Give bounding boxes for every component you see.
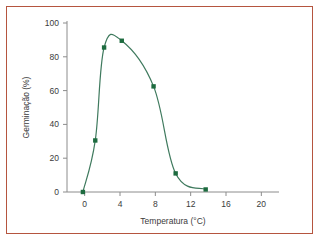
x-axis-title: Temperatura (°C) bbox=[140, 216, 205, 226]
chart-card: 048121620020406080100Temperatura (°C)Ger… bbox=[7, 7, 312, 233]
data-point-marker bbox=[203, 187, 207, 191]
y-tick-label: 60 bbox=[50, 86, 60, 96]
y-tick-label: 100 bbox=[45, 18, 59, 28]
data-point-marker bbox=[120, 39, 124, 43]
x-tick-label: 12 bbox=[186, 199, 196, 209]
data-point-marker bbox=[93, 138, 97, 142]
y-tick-label: 40 bbox=[50, 119, 60, 129]
data-point-marker bbox=[173, 171, 177, 175]
x-tick-label: 16 bbox=[221, 199, 231, 209]
x-tick-label: 0 bbox=[82, 199, 87, 209]
x-tick-label: 20 bbox=[257, 199, 267, 209]
figure-frame: 048121620020406080100Temperatura (°C)Ger… bbox=[6, 6, 313, 234]
data-point-marker bbox=[81, 190, 85, 194]
germination-vs-temperature-chart: 048121620020406080100Temperatura (°C)Ger… bbox=[7, 7, 311, 232]
x-tick-label: 8 bbox=[153, 199, 158, 209]
data-point-marker bbox=[102, 45, 106, 49]
x-tick-label: 4 bbox=[118, 199, 123, 209]
y-tick-label: 0 bbox=[54, 187, 59, 197]
y-tick-label: 20 bbox=[50, 153, 60, 163]
data-point-marker bbox=[151, 84, 155, 88]
y-axis-title: Germinação (%) bbox=[21, 76, 31, 138]
series-line bbox=[83, 34, 206, 192]
y-tick-label: 80 bbox=[50, 52, 60, 62]
